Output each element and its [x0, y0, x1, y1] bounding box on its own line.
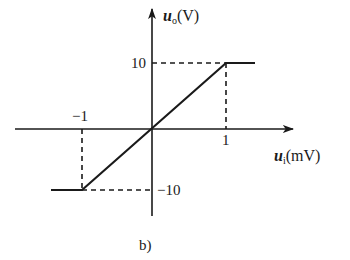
- tick-x-positive: 1: [222, 133, 230, 148]
- y-axis-variable: u: [163, 7, 172, 24]
- transfer-characteristic-plot: [0, 0, 350, 260]
- x-axis-label: ui(mV): [274, 148, 320, 166]
- y-axis-label: uo(V): [163, 8, 199, 26]
- transfer-curve: [51, 63, 255, 190]
- y-axis-unit: (V): [177, 7, 199, 24]
- tick-y-positive: 10: [131, 56, 146, 71]
- x-axis-unit: (mV): [286, 147, 321, 164]
- tick-x-negative: −1: [72, 109, 88, 124]
- tick-y-negative: −10: [157, 183, 180, 198]
- figure-caption: b): [139, 238, 152, 253]
- x-axis-variable: u: [274, 147, 283, 164]
